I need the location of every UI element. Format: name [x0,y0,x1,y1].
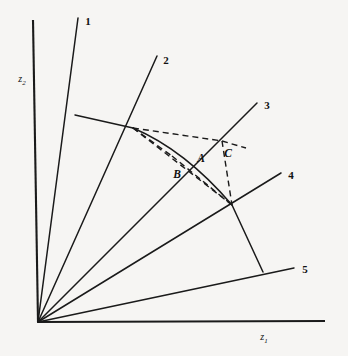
ray-label-2: 2 [163,54,169,66]
point-label-C: C [224,147,232,159]
x-axis-line [38,321,325,322]
axis-labels-group: z2 z1 [17,73,267,345]
point-label-A: A [196,152,205,164]
point-label-B: B [172,168,181,180]
x-axis-label-subscript: 1 [264,337,268,345]
x-axis-label: z1 [259,331,267,345]
cone-diagram: 1 2 3 4 5 A B C z2 z1 [0,0,348,356]
frontier-segment-ray4-ray5 [232,205,263,272]
dashed-construction-group [133,128,246,205]
ray-label-1: 1 [85,15,91,27]
y-axis-label-subscript: 2 [22,79,26,87]
ray-label-4: 4 [288,169,294,181]
dashed-apex-to-lower-node [133,128,232,205]
y-axis-label: z2 [17,73,26,87]
solid-frontier-group [75,115,263,272]
y-axis-line [33,20,38,322]
ray-5 [38,268,294,322]
ray-label-5: 5 [302,263,308,275]
frontier-segment-ray1-ray2 [75,115,133,128]
ray-labels-group: 1 2 3 4 5 [85,15,308,275]
ray-3 [38,103,257,322]
ray-4 [38,173,281,322]
ray-label-3: 3 [264,99,270,111]
